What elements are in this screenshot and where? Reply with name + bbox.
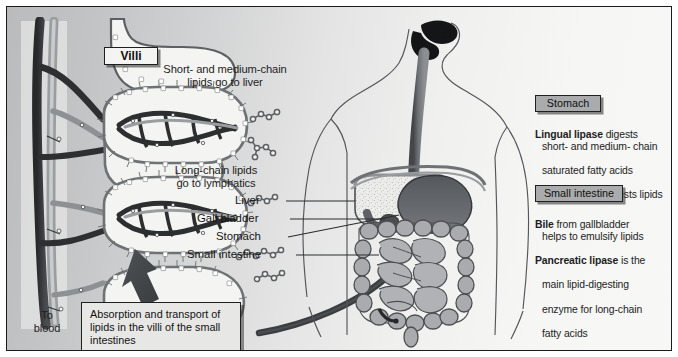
small-intestine-panel-body: Bile from gallbladder helps to emulsify … bbox=[535, 207, 672, 351]
figure-frame: Villi Short- and medium-chain lipids go … bbox=[6, 6, 672, 351]
si-line-4: main lipid-digesting bbox=[535, 279, 672, 291]
si-line-1-bold: Bile bbox=[535, 219, 554, 230]
villi-absorption-callout: Absorption and transport of lipids in th… bbox=[81, 302, 241, 351]
stomach-line-1-bold: Lingual lipase bbox=[535, 129, 603, 140]
si-line-1-rest: from gallbladder bbox=[554, 219, 630, 230]
illustration-canvas: Villi Short- and medium-chain lipids go … bbox=[7, 7, 671, 350]
si-line-3-bold: Pancreatic lipase bbox=[535, 255, 618, 266]
stomach-line-2: short- and medium- chain bbox=[535, 141, 672, 153]
to-blood-label: To blood bbox=[25, 309, 69, 335]
si-line-5: enzyme for long-chain bbox=[535, 304, 672, 316]
oral-cavity bbox=[411, 21, 458, 61]
lipid-molecule-long-chain-c bbox=[254, 270, 284, 281]
organ-label-gall-bladder: Gall bladder bbox=[197, 212, 258, 224]
si-line-2: helps to emulsify lipids bbox=[535, 231, 672, 243]
organ-label-liver: Liver bbox=[235, 194, 260, 206]
villi-tag: Villi bbox=[104, 47, 158, 65]
lipid-digestion-figure: Villi Short- and medium-chain lipids go … bbox=[0, 0, 678, 357]
small-intestine bbox=[377, 239, 447, 313]
digestive-organs bbox=[351, 167, 485, 347]
stomach-line-3: saturated fatty acids bbox=[535, 165, 672, 177]
si-line-3-rest: is the bbox=[618, 255, 645, 266]
organ-label-small-intestine: Small intestine bbox=[187, 248, 261, 260]
small-intestine-panel-tag: Small intestine bbox=[535, 185, 623, 202]
stomach-panel-tag: Stomach bbox=[535, 95, 601, 112]
note-short-medium-chain: Short- and medium-chain lipids go to liv… bbox=[155, 63, 295, 89]
note-long-chain: Long-chain lipids go to lymphatics bbox=[157, 164, 275, 190]
lipid-molecule-short-chain bbox=[250, 109, 279, 121]
stomach-line-1-rest: digests bbox=[603, 129, 638, 140]
si-line-6: fatty acids bbox=[535, 328, 672, 340]
large-intestine bbox=[354, 220, 474, 347]
organ-label-stomach: Stomach bbox=[216, 230, 261, 242]
lipid-molecule-branched bbox=[248, 137, 275, 159]
